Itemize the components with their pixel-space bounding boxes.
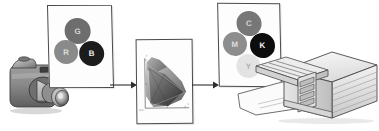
rgb-color-page: G R B — [47, 5, 114, 88]
gamut-chart-origin-label: 0.0 — [139, 108, 143, 112]
gamut-chart: y x 0.0 — [137, 40, 193, 124]
diagram-canvas: G R B — [0, 0, 379, 131]
gamut-chart-x-axis-label: x — [187, 102, 189, 106]
ink-dot-r-label: R — [63, 47, 69, 56]
ink-dot-b-label: B — [89, 49, 95, 58]
ink-dot-c-label: C — [246, 19, 252, 28]
printer-icon — [236, 48, 379, 128]
ink-dot-g-label: G — [74, 26, 81, 35]
arrow-camera-to-chart — [110, 78, 138, 92]
printer-illustration — [236, 48, 379, 128]
gamut-chart-y-axis-label: y — [146, 53, 148, 57]
ink-dot-r: R — [54, 40, 79, 64]
gamut-chart-page: y x 0.0 — [136, 39, 194, 125]
arrow-chart-to-printer — [192, 78, 220, 92]
ink-dot-b: B — [79, 41, 105, 66]
